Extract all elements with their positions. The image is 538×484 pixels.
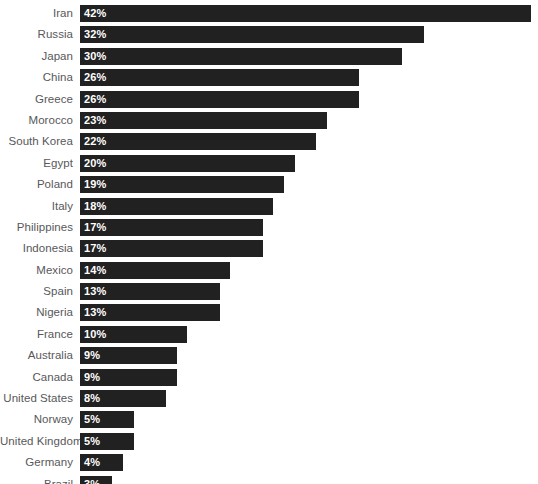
bar: 13% [80, 283, 220, 300]
bar-track: 13% [80, 283, 538, 300]
category-label: South Korea [0, 133, 80, 150]
category-label: Morocco [0, 112, 80, 129]
bar-track: 9% [80, 347, 538, 364]
category-label: China [0, 69, 80, 86]
bar: 14% [80, 262, 230, 279]
bar: 17% [80, 240, 263, 257]
bar-value-label: 13% [80, 283, 106, 300]
bar-value-label: 5% [80, 411, 100, 428]
bar-value-label: 10% [80, 326, 106, 343]
bar-value-label: 26% [80, 69, 106, 86]
bar-row: France10% [0, 326, 538, 343]
bar-value-label: 32% [80, 26, 106, 43]
bar-row: Norway5% [0, 411, 538, 428]
bar-track: 26% [80, 91, 538, 108]
category-label: Greece [0, 91, 80, 108]
category-label: Germany [0, 454, 80, 471]
bar: 19% [80, 176, 284, 193]
bar-track: 26% [80, 69, 538, 86]
category-label: Egypt [0, 155, 80, 172]
bar-value-label: 17% [80, 240, 106, 257]
bar: 4% [80, 454, 123, 471]
bar: 26% [80, 69, 359, 86]
bar-row: Mexico14% [0, 262, 538, 279]
bar-value-label: 30% [80, 48, 106, 65]
bar: 42% [80, 5, 531, 22]
bar-value-label: 19% [80, 176, 106, 193]
bar-track: 19% [80, 176, 538, 193]
bar: 8% [80, 390, 166, 407]
bar-row: Brazil3% [0, 476, 538, 484]
bar-value-label: 9% [80, 369, 100, 386]
bar-track: 13% [80, 304, 538, 321]
bar-value-label: 22% [80, 133, 106, 150]
bar-row: Australia9% [0, 347, 538, 364]
bar: 5% [80, 433, 134, 450]
bar: 23% [80, 112, 327, 129]
bar-value-label: 3% [80, 476, 100, 484]
bar-value-label: 18% [80, 198, 106, 215]
bar-track: 8% [80, 390, 538, 407]
bar-track: 32% [80, 26, 538, 43]
bar-value-label: 8% [80, 390, 100, 407]
bar: 9% [80, 369, 177, 386]
bar-track: 30% [80, 48, 538, 65]
bar: 32% [80, 26, 424, 43]
bar-row: Egypt20% [0, 155, 538, 172]
bar-row: Canada9% [0, 369, 538, 386]
bar-track: 17% [80, 240, 538, 257]
bar-track: 20% [80, 155, 538, 172]
bar: 9% [80, 347, 177, 364]
bar-value-label: 9% [80, 347, 100, 364]
bar-row: South Korea22% [0, 133, 538, 150]
category-label: Mexico [0, 262, 80, 279]
bar-value-label: 5% [80, 433, 100, 450]
bar-row: Nigeria13% [0, 304, 538, 321]
category-label: Norway [0, 411, 80, 428]
horizontal-bar-chart: Iran42%Russia32%Japan30%China26%Greece26… [0, 0, 538, 484]
bar-track: 17% [80, 219, 538, 236]
bar-row: Iran42% [0, 5, 538, 22]
bar: 17% [80, 219, 263, 236]
bar: 18% [80, 198, 273, 215]
category-label: United States [0, 390, 80, 407]
bar: 10% [80, 326, 187, 343]
bar-value-label: 20% [80, 155, 106, 172]
bar: 22% [80, 133, 316, 150]
bar-row: Japan30% [0, 48, 538, 65]
bar-track: 9% [80, 369, 538, 386]
bar: 20% [80, 155, 295, 172]
bar-value-label: 17% [80, 219, 106, 236]
bar: 5% [80, 411, 134, 428]
category-label: Poland [0, 176, 80, 193]
bar-row: United States8% [0, 390, 538, 407]
bar-track: 10% [80, 326, 538, 343]
category-label: Australia [0, 347, 80, 364]
bar-track: 22% [80, 133, 538, 150]
bar-row: Indonesia17% [0, 240, 538, 257]
bar-row: Spain13% [0, 283, 538, 300]
bar-track: 3% [80, 476, 538, 484]
category-label: Spain [0, 283, 80, 300]
bar-value-label: 26% [80, 91, 106, 108]
bar-row: Morocco23% [0, 112, 538, 129]
bar: 3% [80, 476, 112, 484]
bar-track: 42% [80, 5, 538, 22]
bar-row: Philippines17% [0, 219, 538, 236]
bar: 30% [80, 48, 402, 65]
bar: 26% [80, 91, 359, 108]
bar-value-label: 23% [80, 112, 106, 129]
bar-value-label: 13% [80, 304, 106, 321]
bar-row: Germany4% [0, 454, 538, 471]
bar-track: 14% [80, 262, 538, 279]
category-label: Japan [0, 48, 80, 65]
category-label: Canada [0, 369, 80, 386]
bar-value-label: 14% [80, 262, 106, 279]
bar-value-label: 4% [80, 454, 100, 471]
category-label: Brazil [0, 476, 80, 484]
category-label: United Kingdom [0, 433, 80, 450]
category-label: Iran [0, 5, 80, 22]
bar-track: 18% [80, 198, 538, 215]
bar-value-label: 42% [80, 5, 106, 22]
bar: 13% [80, 304, 220, 321]
